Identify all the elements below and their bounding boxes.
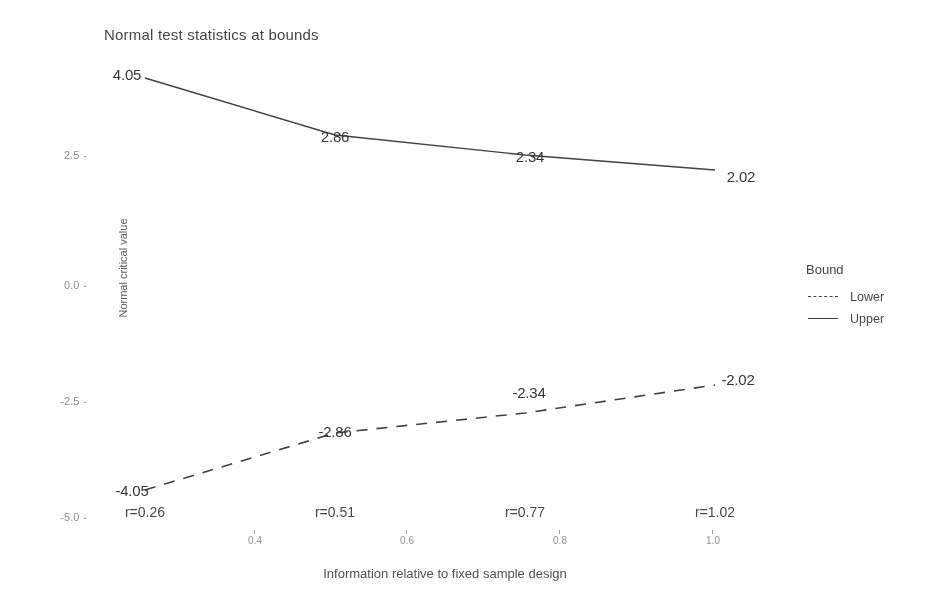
chart-title: Normal test statistics at bounds bbox=[104, 26, 319, 43]
y-tick-label: 0.0 bbox=[64, 279, 79, 291]
data-label-upper-2: 2.86 bbox=[321, 128, 349, 145]
data-label-lower-4: -2.02 bbox=[721, 371, 754, 388]
y-tick-mark: - bbox=[83, 279, 87, 291]
r-label-2: r=0.51 bbox=[315, 504, 355, 520]
y-tick-0.0: 0.0- bbox=[64, 279, 87, 291]
r-label-4: r=1.02 bbox=[695, 504, 735, 520]
x-tick-0.4: 0.4 bbox=[248, 530, 262, 546]
y-tick-label: -5.0 bbox=[60, 511, 79, 523]
y-tick-label: 2.5 bbox=[64, 149, 79, 161]
data-label-lower-3: -2.34 bbox=[512, 384, 545, 401]
y-tick-mark: - bbox=[83, 395, 87, 407]
legend-label-upper: Upper bbox=[850, 312, 884, 326]
y-tick-label: -2.5 bbox=[60, 395, 79, 407]
y-tick--5.0: -5.0- bbox=[60, 511, 87, 523]
data-label-lower-2: -2.86 bbox=[318, 423, 351, 440]
x-tick-label: 0.8 bbox=[553, 535, 567, 546]
x-tick-label: 0.4 bbox=[248, 535, 262, 546]
legend-label-lower: Lower bbox=[850, 290, 884, 304]
data-label-upper-3: 2.34 bbox=[516, 148, 544, 165]
series-lower-line bbox=[145, 385, 715, 490]
series-upper-line bbox=[145, 78, 715, 170]
x-tick-mark bbox=[713, 530, 714, 534]
x-tick-mark bbox=[560, 530, 561, 534]
x-tick-label: 1.0 bbox=[706, 535, 720, 546]
x-axis-title: Information relative to fixed sample des… bbox=[95, 566, 795, 581]
x-tick-0.8: 0.8 bbox=[553, 530, 567, 546]
data-label-upper-4: 2.02 bbox=[727, 168, 755, 185]
x-tick-0.6: 0.6 bbox=[400, 530, 414, 546]
legend-item-upper[interactable]: Upper bbox=[806, 308, 884, 330]
chart-page: Normal test statistics at bounds Normal … bbox=[0, 0, 925, 605]
y-tick--2.5: -2.5- bbox=[60, 395, 87, 407]
y-tick-mark: - bbox=[83, 149, 87, 161]
data-label-upper-1: 4.05 bbox=[113, 66, 141, 83]
legend: Bound Lower Upper bbox=[806, 262, 884, 330]
legend-swatch-solid-icon bbox=[806, 313, 840, 325]
legend-title: Bound bbox=[806, 262, 884, 277]
r-label-3: r=0.77 bbox=[505, 504, 545, 520]
x-tick-1.0: 1.0 bbox=[706, 530, 720, 546]
x-tick-mark bbox=[255, 530, 256, 534]
x-tick-label: 0.6 bbox=[400, 535, 414, 546]
legend-swatch-dashed-icon bbox=[806, 291, 840, 303]
plot-lines bbox=[95, 52, 795, 518]
x-tick-mark bbox=[407, 530, 408, 534]
r-label-1: r=0.26 bbox=[125, 504, 165, 520]
legend-item-lower[interactable]: Lower bbox=[806, 286, 884, 308]
data-label-lower-1: -4.05 bbox=[115, 482, 148, 499]
y-tick-mark: - bbox=[83, 511, 87, 523]
y-tick-2.5: 2.5- bbox=[64, 149, 87, 161]
plot-panel: Normal critical value 2.5- 0.0- -2.5- -5… bbox=[95, 52, 795, 518]
